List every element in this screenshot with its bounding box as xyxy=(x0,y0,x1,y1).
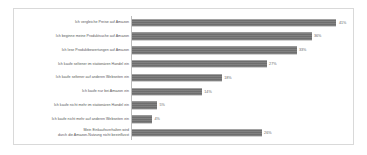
bar-row: Ich kaufe seltener auf anderen Webseiten… xyxy=(14,71,353,84)
bar-fill xyxy=(132,129,262,136)
bar-row: Ich kaufe nur bei Amazon ein 14% xyxy=(14,85,353,98)
bar-track xyxy=(132,129,262,136)
bar-value-label: 36% xyxy=(312,34,322,39)
bar-category-label: Ich kaufe nur bei Amazon ein xyxy=(16,89,129,94)
bar-row: Ich beginne meine Produktsuche auf Amazo… xyxy=(14,30,353,43)
bar-category-label: Ich kaufe nicht mehr auf anderen Webseit… xyxy=(16,117,129,122)
bar-value-label: 4% xyxy=(152,117,160,122)
bar-value-label: 41% xyxy=(336,20,346,25)
bar-fill xyxy=(132,102,157,109)
bar-category-label: Ich kaufe nicht mehr im stationären Hand… xyxy=(16,103,129,108)
bar-fill xyxy=(132,115,152,122)
bar-fill xyxy=(132,33,312,40)
bar-value-label: 26% xyxy=(262,130,272,135)
bar-row: Ich kaufe nicht mehr auf anderen Webseit… xyxy=(14,113,353,126)
bar-fill xyxy=(132,60,267,67)
bar-value-label: 27% xyxy=(267,61,277,66)
bar-track xyxy=(132,46,297,53)
bar-track xyxy=(132,19,336,26)
bar-fill xyxy=(132,46,297,53)
bar-value-label: 5% xyxy=(157,103,165,108)
bar-row: Ich kaufe seltener im stationären Handel… xyxy=(14,57,353,70)
bar-value-label: 14% xyxy=(202,89,212,94)
bar-category-label: Ich kaufe seltener auf anderen Webseiten… xyxy=(16,75,129,80)
bar-row: Ich lese Produktbewertungen auf Amazon 3… xyxy=(14,44,353,57)
bar-value-label: 33% xyxy=(297,48,307,53)
bar-track xyxy=(132,60,267,67)
bar-fill xyxy=(132,19,336,26)
bar-category-label: Ich beginne meine Produktsuche auf Amazo… xyxy=(16,34,129,39)
bar-row: Ich kaufe nicht mehr im stationären Hand… xyxy=(14,99,353,112)
bar-category-label: Ich lese Produktbewertungen auf Amazon xyxy=(16,48,129,53)
bar-category-label: Ich vergleiche Preise auf Amazon xyxy=(16,20,129,25)
bar-fill xyxy=(132,74,222,81)
chart-panel: Ich vergleiche Preise auf Amazon 41% Ich… xyxy=(13,8,354,145)
bar-row: Ich vergleiche Preise auf Amazon 41% xyxy=(14,16,353,29)
bar-track xyxy=(132,74,222,81)
bar-track xyxy=(132,102,157,109)
bar-fill xyxy=(132,88,202,95)
bar-row: Mein Einkaufsverhalten wird durch die Am… xyxy=(14,126,353,139)
bar-track xyxy=(132,88,202,95)
plot-area: Ich vergleiche Preise auf Amazon 41% Ich… xyxy=(14,9,353,144)
bar-category-label: Ich kaufe seltener im stationären Handel… xyxy=(16,62,129,67)
bar-category-label: Mein Einkaufsverhalten wird durch die Am… xyxy=(16,128,129,137)
bar-value-label: 18% xyxy=(222,75,232,80)
bar-track xyxy=(132,115,152,122)
bar-track xyxy=(132,33,312,40)
